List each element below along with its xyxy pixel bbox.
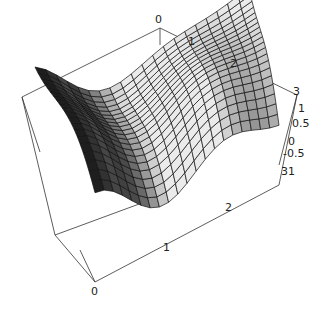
tick-z-1: 1	[298, 103, 305, 114]
surface-mesh	[35, 0, 279, 208]
tick-z-neg0.5: -0.5	[283, 148, 304, 159]
tick-z-0.5: 0.5	[292, 118, 310, 129]
tick-z-bottom: 31	[281, 166, 295, 177]
tick-back-0: 0	[155, 14, 162, 25]
tick-back-2: 2	[230, 58, 237, 69]
tick-z-0: 0	[288, 136, 295, 147]
tick-front-2: 2	[225, 202, 232, 213]
tick-front-1: 1	[163, 242, 170, 253]
tick-z-3: 3	[293, 86, 300, 97]
tick-back-1: 1	[188, 36, 195, 47]
tick-front-0: 0	[91, 286, 98, 297]
